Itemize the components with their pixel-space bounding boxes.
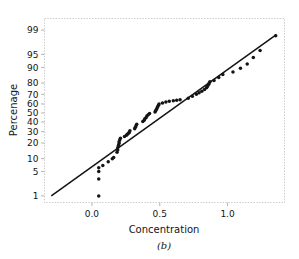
y-tick-label: 70 [27,90,39,100]
probability-plot-figure: 151020304050607080909599 0.00.51.0 Perce… [0,0,299,259]
data-point [258,49,262,53]
y-tick-label: 10 [27,154,39,164]
data-point [148,112,152,116]
data-point [208,80,212,84]
data-point [135,123,139,127]
y-tick-label: 50 [27,108,39,118]
data-point [221,73,225,77]
data-point [128,129,132,133]
y-axis-ticks: 151020304050607080909599 [27,25,44,201]
data-point [175,98,179,102]
data-point [157,102,161,106]
y-tick-label: 1 [33,191,39,201]
data-point [97,166,101,170]
data-point [97,170,101,174]
y-tick-label: 60 [27,99,39,109]
data-point [274,34,278,38]
data-point [106,160,110,164]
x-axis-ticks: 0.00.51.0 [85,203,235,219]
data-point [245,62,249,66]
y-tick-label: 5 [33,167,39,177]
data-point [191,95,195,99]
data-point [161,101,165,105]
data-point [231,70,235,74]
y-axis-title: Percenage [8,84,19,136]
y-tick-label: 80 [27,78,39,88]
y-tick-label: 30 [27,127,39,137]
data-point [168,99,172,103]
data-point [239,67,243,71]
y-tick-label: 40 [27,117,39,127]
x-tick-label: 0.5 [153,209,167,219]
data-point [172,99,176,103]
y-tick-label: 90 [27,63,39,73]
y-tick-label: 99 [27,25,39,35]
data-point [112,156,116,160]
data-point [119,136,123,140]
x-tick-label: 0.0 [85,209,100,219]
data-point [97,177,101,181]
data-point [164,100,168,104]
x-tick-label: 1.0 [220,209,235,219]
data-point [186,97,190,101]
data-point [97,194,101,198]
figure-caption: (b) [157,240,171,251]
y-tick-label: 95 [27,50,38,60]
data-point [217,76,221,80]
plot-canvas: 151020304050607080909599 0.00.51.0 Perce… [0,0,299,259]
y-tick-label: 20 [27,138,39,148]
data-point [252,56,256,60]
data-point [178,98,182,102]
x-axis-title: Concentration [129,224,200,235]
data-point [212,79,216,83]
data-point [101,164,105,168]
